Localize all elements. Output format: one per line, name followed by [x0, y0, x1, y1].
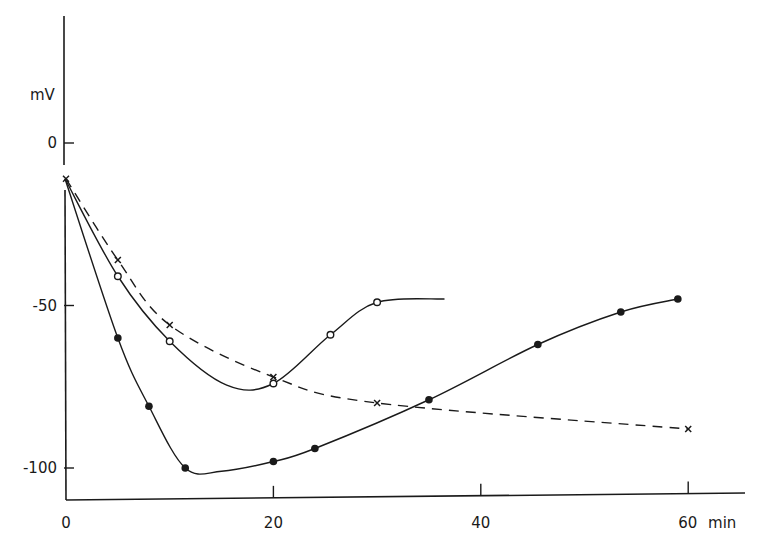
x-tick-label: 60 min — [678, 514, 736, 532]
filled-circle-marker — [534, 341, 542, 349]
tick-labels: 0-50-1000204060 min — [23, 134, 736, 532]
y-axis-label: mV — [30, 86, 56, 104]
axes — [64, 16, 745, 500]
filled-circle-marker — [674, 295, 682, 303]
x-axis — [66, 493, 745, 500]
cross-marker — [685, 426, 691, 432]
open-circle-marker — [115, 273, 122, 280]
open-circle-marker — [166, 338, 173, 345]
open-circle-marker — [327, 331, 334, 338]
filled-circle-marker — [311, 445, 319, 453]
series-curve-2 — [65, 179, 678, 474]
y-axis-lower — [65, 190, 66, 500]
filled-circle-marker — [145, 402, 153, 410]
y-tick-label: -50 — [33, 297, 58, 315]
curves — [65, 179, 688, 474]
open-circle-marker — [270, 380, 277, 387]
filled-circle-marker — [114, 334, 122, 342]
filled-circle-marker — [270, 458, 278, 466]
cross-marker — [374, 400, 380, 406]
cross-marker — [115, 257, 121, 263]
cross-marker — [270, 374, 276, 380]
x-tick-label: 20 — [264, 514, 283, 532]
filled-circle-marker — [181, 464, 189, 472]
x-tick-label: 40 — [471, 514, 490, 532]
series-curve-1 — [65, 179, 445, 390]
x-tick-label: 0 — [61, 514, 71, 532]
y-tick-label: 0 — [47, 134, 57, 152]
cross-marker — [167, 322, 173, 328]
filled-circle-marker — [425, 396, 433, 404]
y-tick-label: -100 — [23, 459, 57, 477]
filled-circle-marker — [617, 308, 625, 316]
open-circle-marker — [374, 299, 381, 306]
chart: 0-50-1000204060 min mV — [0, 0, 763, 554]
markers — [63, 176, 691, 472]
